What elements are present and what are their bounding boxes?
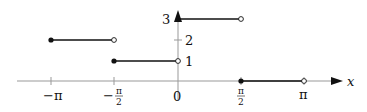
step-function-chart: x −π 0 π − π 2 π 2 1 2 3 bbox=[0, 0, 367, 112]
open-dot bbox=[239, 17, 244, 22]
tick-label-neg-pi: −π bbox=[43, 88, 63, 103]
chart-svg: x −π 0 π − π 2 π 2 1 2 3 bbox=[0, 0, 367, 112]
tick-label-neg-half-pi-minus: − bbox=[103, 88, 114, 103]
open-dot bbox=[176, 59, 181, 64]
closed-dot bbox=[111, 58, 116, 63]
y-axis-arrow-icon bbox=[174, 10, 182, 22]
x-axis-label: x bbox=[347, 74, 355, 89]
y-label-3: 3 bbox=[162, 12, 170, 27]
tick-label-neg-half-pi-den: 2 bbox=[116, 97, 122, 107]
closed-dot bbox=[48, 37, 53, 42]
tick-label-pi: π bbox=[299, 87, 308, 102]
tick-label-zero: 0 bbox=[173, 89, 181, 104]
open-dot bbox=[112, 38, 117, 43]
open-dot bbox=[302, 79, 307, 84]
tick-label-half-pi-den: 2 bbox=[238, 97, 244, 107]
tick-label-half-pi-num: π bbox=[238, 86, 244, 96]
closed-dot bbox=[238, 78, 243, 83]
y-label-1: 1 bbox=[185, 54, 193, 69]
tick-label-neg-half-pi-num: π bbox=[116, 86, 122, 96]
x-axis-arrow-icon bbox=[331, 77, 343, 85]
y-label-2: 2 bbox=[185, 33, 193, 48]
